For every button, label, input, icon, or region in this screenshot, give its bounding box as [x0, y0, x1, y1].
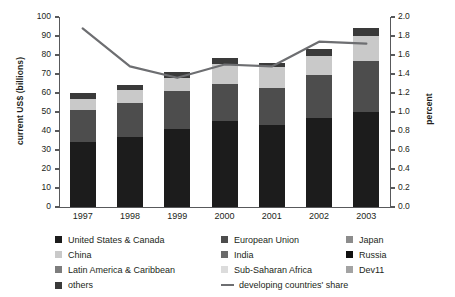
bar-segment	[164, 78, 190, 91]
legend-item[interactable]: Sub-Saharan Africa	[221, 265, 346, 275]
bar-segment	[117, 137, 143, 207]
x-axis-label-2000: 2000	[200, 211, 250, 221]
legend-swatch-icon	[346, 266, 353, 273]
y-axis-left-tick	[55, 187, 59, 188]
legend-swatch-icon	[55, 266, 62, 273]
legend-swatch-icon	[346, 251, 353, 258]
legend-label: Dev11	[359, 265, 384, 275]
bar-segment	[70, 110, 96, 142]
bar-segment	[353, 36, 379, 61]
y-axis-right-tick-label: 0.6	[398, 144, 438, 154]
y-axis-left-tick	[55, 206, 59, 207]
legend-label: Latin America & Caribbean	[68, 265, 175, 275]
legend-label: United States & Canada	[68, 235, 165, 245]
legend-item[interactable]: Russia	[346, 250, 447, 260]
y-axis-left-tick-label: 70	[0, 68, 51, 78]
legend-label: others	[68, 280, 93, 290]
legend-swatch-icon	[55, 282, 62, 289]
legend-swatch-icon	[221, 236, 228, 243]
bar-2002	[306, 17, 332, 207]
legend: United States & CanadaEuropean UnionJapa…	[55, 232, 447, 293]
bar-2001	[259, 17, 285, 207]
bar-segment	[164, 72, 190, 78]
bar-segment	[259, 67, 285, 88]
legend-item[interactable]: United States & Canada	[55, 235, 221, 245]
legend-label: developing countries' share	[239, 280, 348, 290]
legend-item[interactable]: Dev11	[346, 265, 447, 275]
y-axis-right-tick-label: 0.8	[398, 125, 438, 135]
legend-item[interactable]: others	[55, 280, 221, 290]
y-axis-right-tick	[391, 35, 395, 36]
legend-row: United States & CanadaEuropean UnionJapa…	[55, 232, 447, 247]
y-axis-left-title: current US$ (billions)	[15, 41, 25, 161]
y-axis-left-tick	[55, 168, 59, 169]
y-axis-right-tick-label: 1.2	[398, 87, 438, 97]
legend-swatch-icon	[55, 236, 62, 243]
x-axis-label-2003: 2003	[341, 211, 391, 221]
y-axis-right-tick	[391, 149, 395, 150]
legend-label: China	[68, 250, 92, 260]
y-axis-right-tick	[391, 16, 395, 17]
legend-swatch-icon	[55, 251, 62, 258]
legend-item[interactable]: China	[55, 250, 221, 260]
bar-1997	[70, 17, 96, 207]
bar-segment	[117, 103, 143, 137]
legend-label: Japan	[359, 235, 384, 245]
y-axis-left-tick	[55, 130, 59, 131]
legend-item[interactable]: India	[221, 250, 346, 260]
x-axis-label-2001: 2001	[247, 211, 297, 221]
legend-label: European Union	[234, 235, 299, 245]
y-axis-left-tick-label: 40	[0, 125, 51, 135]
y-axis-right-tick-label: 0.2	[398, 182, 438, 192]
legend-swatch-icon	[221, 266, 228, 273]
y-axis-right-tick-label: 2.0	[398, 11, 438, 21]
bar-segment	[212, 64, 238, 84]
bar-segment	[306, 118, 332, 207]
bar-segment	[353, 61, 379, 112]
y-axis-right-tick-label: 1.6	[398, 49, 438, 59]
plot-area	[59, 17, 390, 207]
y-axis-left-tick-label: 60	[0, 87, 51, 97]
y-axis-left-tick-label: 30	[0, 144, 51, 154]
legend-swatch-icon	[346, 236, 353, 243]
bar-2003	[353, 17, 379, 207]
legend-swatch-icon	[221, 251, 228, 258]
legend-item[interactable]: developing countries' share	[221, 280, 346, 290]
y-axis-right-tick	[391, 92, 395, 93]
y-axis-right-tick-label: 1.4	[398, 68, 438, 78]
y-axis-right-tick-label: 1.0	[398, 106, 438, 116]
y-axis-left-tick	[55, 92, 59, 93]
legend-item[interactable]: Latin America & Caribbean	[55, 265, 221, 275]
bar-segment	[259, 88, 285, 125]
y-axis-right-tick-label: 0.0	[398, 201, 438, 211]
bar-2000	[212, 17, 238, 207]
legend-row: Latin America & CaribbeanSub-Saharan Afr…	[55, 262, 447, 277]
legend-row: ChinaIndiaRussia	[55, 247, 447, 262]
bar-segment	[70, 99, 96, 110]
y-axis-right-tick-label: 0.4	[398, 163, 438, 173]
bar-segment	[117, 85, 143, 90]
y-axis-left-tick	[55, 149, 59, 150]
y-axis-right-tick	[391, 73, 395, 74]
legend-line-marker-icon	[221, 284, 234, 286]
y-axis-left-tick-label: 20	[0, 163, 51, 173]
y-axis-left-tick-label: 80	[0, 49, 51, 59]
bar-segment	[353, 28, 379, 36]
y-axis-right-tick	[391, 187, 395, 188]
legend-label: Sub-Saharan Africa	[234, 265, 312, 275]
bar-segment	[70, 93, 96, 99]
bar-segment	[353, 112, 379, 207]
x-axis-label-1997: 1997	[58, 211, 108, 221]
y-axis-left-tick-label: 90	[0, 30, 51, 40]
y-axis-left-tick-label: 10	[0, 182, 51, 192]
legend-item[interactable]: Japan	[346, 235, 447, 245]
y-axis-right-tick	[391, 130, 395, 131]
bar-segment	[212, 84, 238, 121]
x-axis-label-1998: 1998	[105, 211, 155, 221]
y-axis-left-tick-label: 0	[0, 201, 51, 211]
y-axis-right-tick-label: 1.8	[398, 30, 438, 40]
y-axis-left-tick	[55, 111, 59, 112]
bar-segment	[306, 49, 332, 56]
y-axis-left-tick	[55, 73, 59, 74]
legend-item[interactable]: European Union	[221, 235, 346, 245]
